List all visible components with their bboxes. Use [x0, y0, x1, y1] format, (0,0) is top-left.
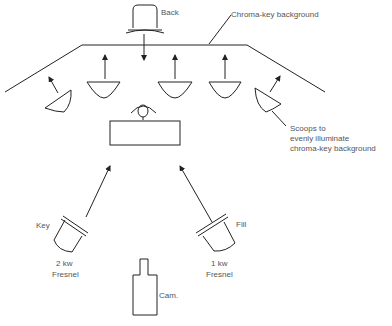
lighting-diagram: Back Chroma-key background Scoops to eve… [0, 0, 392, 326]
scoops-label-line3: chroma-key background [290, 144, 376, 153]
desk [110, 121, 180, 145]
key-light [54, 216, 88, 252]
key-beam [86, 166, 110, 217]
back-light [126, 5, 164, 60]
fill-spec-line2: Fresnel [206, 270, 233, 279]
key-spec-line2: Fresnel [52, 270, 79, 279]
background-leader-line [209, 15, 231, 44]
fill-label: Fill [236, 220, 246, 229]
back-label: Back [161, 8, 180, 17]
background-label: Chroma-key background [231, 10, 319, 19]
scoop-4 [209, 55, 241, 98]
fill-spec-line1: 1 kw [211, 259, 228, 268]
scoops-label-line1: Scoops to [290, 124, 326, 133]
talent [131, 105, 156, 120]
scoop-5 [255, 76, 286, 126]
scoops-label-line2: evenly illuminate [290, 134, 350, 143]
scoop-1 [45, 77, 71, 112]
key-spec-line1: 2 kw [56, 259, 73, 268]
camera [133, 259, 157, 315]
fill-beam [180, 166, 212, 222]
scoop-3 [158, 55, 192, 98]
camera-label: Cam. [159, 291, 178, 300]
scoop-2 [87, 55, 120, 98]
fill-light [196, 214, 235, 251]
key-label: Key [36, 221, 50, 230]
